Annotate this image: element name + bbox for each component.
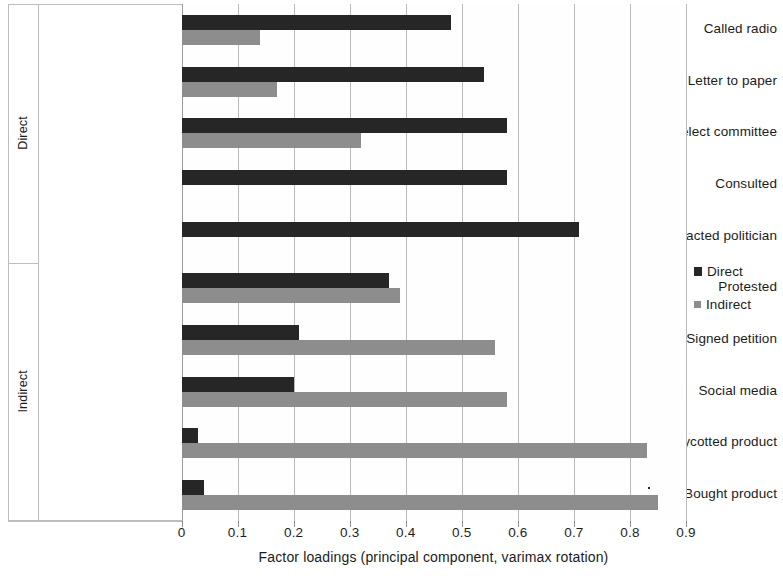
- group-label-direct-text: Direct: [16, 116, 30, 150]
- legend-item-direct[interactable]: Direct: [694, 264, 780, 279]
- plot-area: [182, 4, 687, 521]
- x-axis-ticklabel: 0: [152, 525, 212, 540]
- bar-direct: [182, 118, 507, 133]
- bar-direct: [182, 325, 300, 340]
- legend-label-direct: Direct: [707, 264, 743, 279]
- bar-direct: [182, 428, 199, 443]
- bar-direct: [182, 480, 204, 495]
- bar-indirect: [182, 30, 260, 45]
- bar-indirect: [182, 133, 361, 148]
- category-label: Signed petition: [686, 331, 777, 346]
- category-label: Called radio: [704, 21, 777, 36]
- x-axis-ticklabel: 0.2: [264, 525, 324, 540]
- group-label-indirect: Indirect: [8, 263, 38, 522]
- x-axis-ticklabel: 0.8: [600, 525, 660, 540]
- x-axis-ticklabel: 0.9: [656, 525, 716, 540]
- group-label-indirect-text: Indirect: [16, 370, 30, 413]
- category-label: Letter to paper: [688, 73, 777, 88]
- gridline: [686, 4, 687, 521]
- bar-direct: [182, 15, 451, 30]
- bar-indirect: [182, 495, 658, 510]
- bar-indirect: [182, 340, 496, 355]
- bar-direct: [182, 377, 294, 392]
- x-axis-ticklabel: 0.3: [320, 525, 380, 540]
- x-axis-ticklabel: 0.7: [544, 525, 604, 540]
- category-label: Bought product: [684, 486, 777, 501]
- legend: Direct Indirect: [694, 264, 780, 330]
- bar-direct: [182, 222, 580, 237]
- direct-swatch-icon: [694, 267, 702, 276]
- group-divider-bottom: [8, 521, 182, 522]
- category-label: Social media: [699, 383, 778, 398]
- legend-item-indirect[interactable]: Indirect: [694, 297, 780, 312]
- chart-figure: Direct Indirect Called radioLetter to pa…: [0, 0, 783, 582]
- x-axis-title: Factor loadings (principal component, va…: [181, 549, 686, 565]
- bar-direct: [182, 273, 389, 288]
- indirect-swatch-icon: [694, 301, 701, 308]
- x-axis-ticklabel: 0.4: [376, 525, 436, 540]
- x-axis-ticklabel: 0.6: [488, 525, 548, 540]
- bar-direct: [182, 170, 507, 185]
- legend-label-indirect: Indirect: [706, 297, 751, 312]
- category-label: Consulted: [715, 176, 777, 191]
- bar-indirect: [182, 82, 277, 97]
- bar-direct: [182, 67, 485, 82]
- category-axis: [38, 4, 182, 521]
- x-axis-ticklabel: 0.1: [208, 525, 268, 540]
- category-label: Select committee: [672, 124, 777, 139]
- bar-indirect: [182, 288, 401, 303]
- bar-indirect: [182, 392, 507, 407]
- group-label-direct: Direct: [8, 4, 38, 263]
- x-axis-ticklabel: 0.5: [432, 525, 492, 540]
- bar-indirect: [182, 443, 647, 458]
- scan-speck: [648, 487, 650, 489]
